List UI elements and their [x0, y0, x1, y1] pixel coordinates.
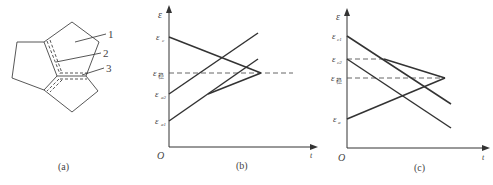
caption-a: (a) — [58, 161, 69, 173]
svg-text:c: c — [162, 38, 165, 43]
y-axis-label-c: ε — [336, 11, 340, 22]
y-tick-stable-c: ε 稳 — [331, 73, 342, 85]
x-axis-label-c: t — [482, 153, 485, 162]
svg-text:ε: ε — [333, 114, 337, 124]
caption-c: (c) — [414, 162, 425, 174]
y-tick-stable-b: ε 稳 — [153, 68, 164, 80]
left-grain — [12, 42, 44, 90]
x-axis-label-b: t — [310, 151, 313, 160]
svg-text:c1: c1 — [337, 37, 342, 42]
y-tick-ea2-b: ε a2 — [155, 89, 167, 100]
y-tick-ec-b: ε c — [156, 32, 165, 43]
origin-label-c: O — [338, 152, 345, 163]
y-tick-ec2-c: ε c2 — [332, 54, 342, 65]
callout-line-3 — [82, 68, 104, 75]
svg-text:a: a — [338, 120, 341, 125]
figure: 1 2 3 (a) ε t O ε c ε 稳 ε a2 ε a1 (b) — [0, 0, 493, 185]
svg-text:ε: ε — [331, 73, 335, 83]
svg-text:ε: ε — [156, 32, 160, 42]
line-ea-c — [347, 78, 445, 119]
svg-text:a1: a1 — [161, 122, 166, 127]
svg-text:a2: a2 — [161, 95, 167, 100]
callout-3: 3 — [106, 62, 112, 74]
svg-text:ε: ε — [153, 68, 157, 78]
svg-text:稳: 稳 — [158, 72, 164, 80]
svg-text:ε: ε — [155, 116, 159, 126]
y-tick-ec1-c: ε c1 — [332, 31, 342, 42]
panel-b-chart — [169, 9, 314, 147]
callout-line-2 — [56, 53, 101, 62]
y-axis-label-b: ε — [158, 9, 162, 20]
line-ea1-b — [169, 59, 258, 121]
line-ec-b — [169, 37, 261, 73]
svg-text:ε: ε — [332, 54, 336, 64]
callout-2: 2 — [103, 47, 109, 59]
svg-text:ε: ε — [332, 31, 336, 41]
panel-a-pentagon-diagram — [12, 22, 106, 112]
y-tick-ea1-b: ε a1 — [155, 116, 166, 127]
svg-text:c2: c2 — [337, 60, 342, 65]
top-grain — [44, 22, 99, 76]
svg-text:ε: ε — [155, 89, 159, 99]
y-tick-ea-c: ε a — [333, 114, 341, 125]
callout-1: 1 — [108, 28, 114, 40]
svg-text:稳: 稳 — [336, 77, 342, 85]
origin-label-b: O — [157, 150, 164, 161]
branch-to-stable-c — [384, 59, 445, 78]
panel-c-chart — [347, 12, 486, 148]
caption-b: (b) — [236, 160, 248, 172]
